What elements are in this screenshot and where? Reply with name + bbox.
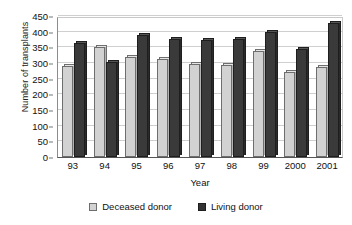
bar-face xyxy=(157,59,168,157)
x-tick-label: 94 xyxy=(99,160,110,172)
bar-side xyxy=(244,37,246,155)
bar-top xyxy=(108,60,119,62)
x-tick-label: 99 xyxy=(258,160,269,172)
bar-top xyxy=(96,45,107,47)
y-tick-label: 300 xyxy=(32,59,48,69)
legend-swatch-deceased-icon xyxy=(89,203,97,211)
bar-deceased-94 xyxy=(94,47,105,157)
bar-living-98 xyxy=(233,39,244,157)
bar-face xyxy=(265,32,276,157)
x-tick-label: 97 xyxy=(195,160,206,172)
bar-living-99 xyxy=(265,32,276,157)
y-tick-label: 50 xyxy=(37,137,48,147)
legend-item-living: Living donor xyxy=(198,201,263,212)
bar-group xyxy=(58,18,90,157)
bar-side xyxy=(148,33,150,155)
bar-deceased-2000 xyxy=(284,72,295,157)
bar-living-96 xyxy=(169,39,180,157)
y-tick-mark xyxy=(49,126,53,127)
y-tick-label: 400 xyxy=(32,28,48,38)
legend: Deceased donorLiving donor xyxy=(0,201,352,212)
bar-deceased-96 xyxy=(157,59,168,157)
bar-top xyxy=(76,41,87,43)
x-tick-label: 2001 xyxy=(317,160,338,172)
bar-group xyxy=(153,18,185,157)
gridline xyxy=(58,15,342,16)
bar-top xyxy=(330,21,341,23)
bar-group xyxy=(312,18,344,157)
bar-side xyxy=(117,60,119,155)
bar-deceased-99 xyxy=(253,51,264,157)
bar-top xyxy=(203,38,214,40)
bar-face xyxy=(233,39,244,157)
bar-top xyxy=(171,37,182,39)
bar-chart: Number of transplants 050100150200250300… xyxy=(0,0,352,225)
y-axis-ticks: 050100150200250300350400450 xyxy=(0,0,57,160)
bar-living-97 xyxy=(201,40,212,158)
y-tick-label: 350 xyxy=(32,43,48,53)
bar-side xyxy=(339,21,341,155)
bar-side xyxy=(212,38,214,156)
bar-face xyxy=(62,66,73,157)
bar-face xyxy=(328,23,339,157)
bar-side xyxy=(85,41,87,155)
bar-top xyxy=(235,37,246,39)
bar-face xyxy=(284,72,295,157)
bar-face xyxy=(316,67,327,157)
y-tick-label: 250 xyxy=(32,75,48,85)
legend-swatch-living-icon xyxy=(198,203,206,211)
bar-group xyxy=(185,18,217,157)
bar-face xyxy=(221,65,232,157)
bar-deceased-95 xyxy=(125,57,136,157)
x-tick-label: 96 xyxy=(163,160,174,172)
bar-face xyxy=(253,51,264,157)
bar-side xyxy=(276,30,278,155)
x-tick-label: 95 xyxy=(131,160,142,172)
bar-face xyxy=(94,47,105,157)
bar-face xyxy=(74,43,85,157)
y-tick-mark xyxy=(49,48,53,49)
y-tick-label: 450 xyxy=(32,12,48,22)
bar-top xyxy=(139,33,150,35)
bar-group xyxy=(90,18,122,157)
bar-deceased-2001 xyxy=(316,67,327,157)
x-tick-label: 93 xyxy=(68,160,79,172)
y-tick-mark xyxy=(49,158,53,159)
y-tick-mark xyxy=(49,17,53,18)
y-tick-mark xyxy=(49,142,53,143)
bar-living-95 xyxy=(137,35,148,157)
x-axis-title: Year xyxy=(57,177,343,188)
bar-face xyxy=(137,35,148,157)
bar-group xyxy=(122,18,154,157)
plot-area xyxy=(57,17,343,158)
bar-group xyxy=(249,18,281,157)
bar-group xyxy=(217,18,249,157)
y-tick-label: 0 xyxy=(43,153,48,163)
y-tick-mark xyxy=(49,64,53,65)
bar-face xyxy=(201,40,212,158)
bar-top xyxy=(298,47,309,49)
bars-layer xyxy=(58,18,342,157)
bar-side xyxy=(180,37,182,155)
y-tick-label: 100 xyxy=(32,122,48,132)
bar-living-93 xyxy=(74,43,85,157)
y-tick-label: 200 xyxy=(32,90,48,100)
y-tick-label: 150 xyxy=(32,106,48,116)
legend-label: Deceased donor xyxy=(102,201,172,212)
bar-face xyxy=(125,57,136,157)
legend-item-deceased: Deceased donor xyxy=(89,201,172,212)
y-tick-mark xyxy=(49,111,53,112)
y-tick-mark xyxy=(49,95,53,96)
y-tick-mark xyxy=(49,79,53,80)
bar-face xyxy=(296,49,307,157)
bar-living-2000 xyxy=(296,49,307,157)
bar-living-2001 xyxy=(328,23,339,157)
bar-face xyxy=(169,39,180,157)
bar-face xyxy=(106,62,117,157)
bar-deceased-97 xyxy=(189,64,200,157)
bar-top xyxy=(267,30,278,32)
legend-label: Living donor xyxy=(211,201,263,212)
bar-group xyxy=(280,18,312,157)
bar-living-94 xyxy=(106,62,117,157)
bar-face xyxy=(189,64,200,157)
